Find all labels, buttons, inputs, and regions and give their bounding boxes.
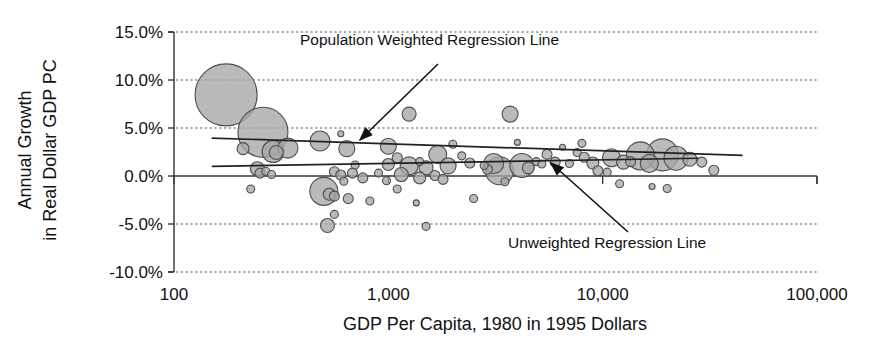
bubble-point: [247, 185, 255, 193]
bubble-point: [414, 172, 426, 184]
bubble-point: [501, 178, 509, 186]
x-tick-label: 100,000: [786, 285, 847, 304]
y-axis-title-line2: in Real Dollar GDP PC: [40, 59, 60, 241]
bubble-point: [458, 152, 466, 160]
bubble-point: [640, 155, 658, 173]
bubble-point: [709, 165, 719, 175]
bubble-point: [269, 145, 283, 159]
bubble-point: [237, 143, 249, 155]
bubble-point: [394, 168, 408, 182]
bubble-point: [329, 191, 339, 201]
y-tick-label: 5.0%: [124, 119, 163, 138]
x-tick-label: 10,000: [577, 285, 629, 304]
bubble-point: [649, 184, 655, 190]
bubble-point: [351, 161, 359, 169]
bubble-point: [366, 197, 374, 205]
bubble-point: [343, 194, 353, 204]
annotation-arrow: [360, 64, 438, 140]
bubble-point: [382, 177, 390, 185]
annotation-layer: Population Weighted Regression LineUnwei…: [300, 31, 706, 251]
annotation-label: Unweighted Regression Line: [508, 234, 706, 251]
y-axis-title-line1: Annual Growth: [15, 90, 35, 209]
bubble-point: [438, 174, 448, 184]
bubble-point: [449, 140, 457, 148]
y-tick-label: 10.0%: [115, 71, 163, 90]
x-tick-label: 100: [160, 285, 188, 304]
x-tick-label: 1,000: [367, 285, 410, 304]
chart-canvas: Population Weighted Regression LineUnwei…: [0, 0, 890, 355]
bubble-point: [626, 157, 636, 167]
annotation-arrow: [551, 163, 628, 232]
bubble-point: [340, 177, 348, 185]
y-tick-label: -5.0%: [119, 215, 163, 234]
bubble-point: [465, 158, 475, 168]
bubble-point: [402, 107, 416, 121]
y-tick-label: 0.0%: [124, 167, 163, 186]
bubble-point: [267, 171, 275, 179]
bubble-point: [550, 157, 560, 167]
annotation-label: Population Weighted Regression Line: [300, 31, 559, 48]
bubble-point: [470, 195, 478, 203]
bubble-point: [320, 218, 334, 232]
bubble-point: [393, 185, 401, 193]
y-tick-label: 15.0%: [115, 23, 163, 42]
bubble-point: [440, 158, 456, 174]
bubble-point: [542, 149, 552, 159]
bubble-point: [416, 158, 424, 166]
bubble-layer: [195, 64, 719, 233]
y-tick-label: -10.0%: [109, 263, 163, 282]
bubble-point: [502, 106, 518, 122]
bubble-point: [330, 210, 338, 218]
bubble-point: [514, 139, 520, 145]
bubble-point: [578, 139, 586, 147]
bubble-point: [422, 222, 430, 230]
bubble-point: [413, 200, 419, 206]
bubble-point: [380, 138, 396, 154]
bubble-point: [338, 131, 344, 137]
bubble-point: [375, 169, 383, 177]
bubble-point: [593, 166, 603, 176]
bubble-point: [603, 168, 611, 176]
bubble-point: [392, 153, 402, 163]
bubble-chart-figure: Population Weighted Regression LineUnwei…: [0, 0, 890, 355]
bubble-point: [347, 168, 357, 178]
bubble-point: [663, 184, 671, 192]
x-axis-title: GDP Per Capita, 1980 in 1995 Dollars: [343, 314, 647, 334]
bubble-point: [616, 180, 624, 188]
bubble-point: [358, 173, 368, 183]
